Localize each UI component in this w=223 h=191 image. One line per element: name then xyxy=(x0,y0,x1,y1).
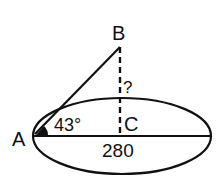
label-c: C xyxy=(124,113,138,135)
label-b: B xyxy=(112,22,125,44)
label-base: 280 xyxy=(102,140,134,161)
diagram-canvas: B A C ? 43° 280 xyxy=(0,0,223,191)
label-unknown: ? xyxy=(123,78,132,97)
label-angle: 43° xyxy=(54,115,81,135)
label-a: A xyxy=(12,128,26,150)
